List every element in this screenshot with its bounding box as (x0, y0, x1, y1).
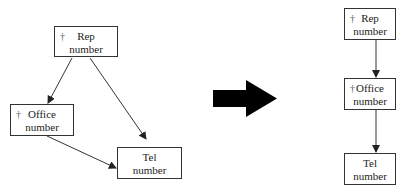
edge-rep-tel (90, 58, 146, 139)
node-label: number (11, 121, 73, 134)
node-label: number (55, 43, 117, 56)
dagger-mark: † (350, 12, 355, 25)
node-label: number (345, 25, 395, 38)
node-label: number (345, 95, 395, 108)
right-node-rep: † Rep number (344, 8, 396, 40)
left-node-tel: Tel number (117, 147, 182, 179)
node-label: number (118, 164, 181, 177)
dagger-mark: † (16, 108, 21, 121)
right-node-office: † Office number (344, 78, 396, 110)
edge-office-tel (47, 136, 116, 168)
dagger-mark: † (60, 30, 65, 43)
node-label: Tel (118, 151, 181, 164)
node-label: number (345, 170, 395, 183)
edge-rep-office (48, 58, 72, 103)
left-node-rep: † Rep number (54, 26, 118, 57)
node-label: Tel (345, 157, 395, 170)
right-node-tel: Tel number (344, 153, 396, 185)
transform-arrow-icon (213, 80, 277, 117)
dagger-mark: † (350, 82, 355, 95)
left-node-office: † Office number (10, 104, 74, 136)
